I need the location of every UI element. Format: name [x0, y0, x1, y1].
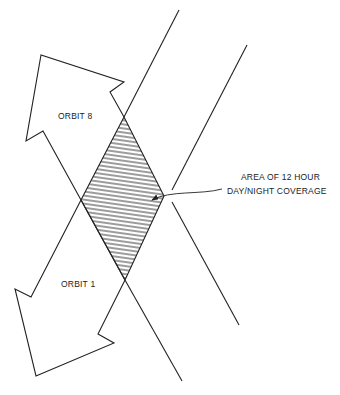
- orbit-8-label: ORBIT 8: [58, 111, 92, 121]
- coverage-overlap-region: [81, 117, 164, 280]
- orbit-coverage-diagram: [0, 0, 340, 395]
- swath-edge-line-1-upper: [124, 10, 179, 117]
- swath-edge-line-2-upper: [172, 45, 247, 190]
- swath-edge-line-1-lower: [125, 280, 182, 381]
- annotation-label-line-2: DAY/NIGHT COVERAGE: [227, 186, 327, 196]
- swath-edge-line-2-lower: [172, 202, 239, 325]
- orbit-1-label: ORBIT 1: [61, 279, 95, 289]
- annotation-label-line-1: AREA OF 12 HOUR: [241, 172, 320, 182]
